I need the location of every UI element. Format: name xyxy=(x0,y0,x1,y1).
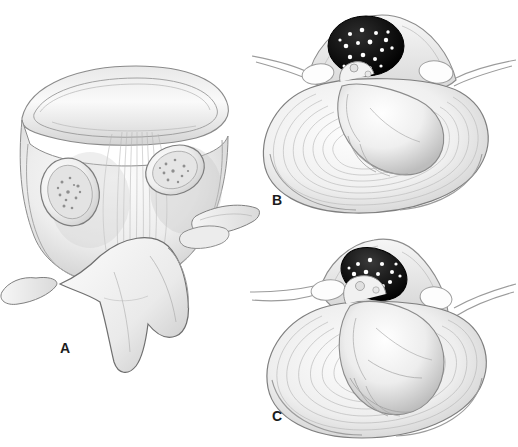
vertebral-body-endplate xyxy=(22,66,229,145)
figure-container: posterior-superior oblique view of verte… xyxy=(0,0,518,447)
panel-a-vertebra: posterior-superior oblique view of verte… xyxy=(0,40,260,380)
panel-b-disc-cross-section: axial cross-section of intervertebral di… xyxy=(250,4,518,216)
panel-a-view-description: posterior-superior oblique view of verte… xyxy=(0,380,1,381)
panel-a-drawing xyxy=(0,40,260,380)
panel-c-disc-cross-section: axial cross-section of intervertebral di… xyxy=(250,228,518,440)
transverse-process-left xyxy=(1,277,57,304)
panel-c-view-description: axial cross-section of intervertebral di… xyxy=(250,440,251,441)
figure-subject: Lumbar vertebra and intervertebral disc … xyxy=(0,0,1,1)
panel-label-a: A xyxy=(60,341,71,355)
panel-label-c: C xyxy=(272,409,283,423)
panel-label-b: B xyxy=(272,193,283,207)
panel-c-drawing xyxy=(250,228,518,440)
panel-b-drawing xyxy=(250,4,518,216)
